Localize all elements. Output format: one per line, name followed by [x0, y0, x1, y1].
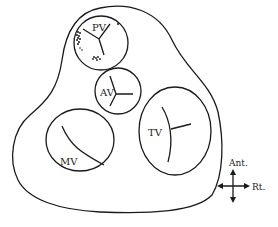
tricuspid-valve: TV [139, 87, 211, 175]
right-label: Rt. [252, 182, 265, 192]
pv-label: PV [92, 22, 107, 33]
av-label: AV [99, 87, 115, 98]
orientation-compass: Ant. Rt. [217, 158, 265, 203]
mitral-valve: MV [46, 109, 114, 171]
heart-outline [13, 6, 222, 212]
pulmonary-valve: PV [74, 16, 128, 70]
heart-valves-diagram: PV AV MV TV Ant. Rt. [0, 0, 278, 227]
mv-label: MV [60, 156, 78, 167]
anterior-label: Ant. [228, 158, 248, 168]
tv-label: TV [148, 127, 163, 138]
aortic-valve: AV [95, 68, 141, 114]
